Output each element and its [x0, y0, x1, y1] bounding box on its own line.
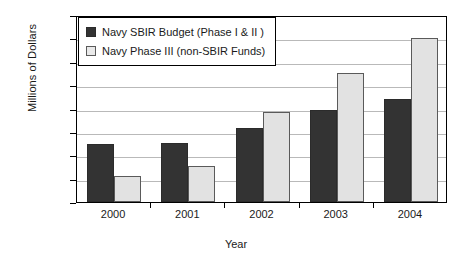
x-tick-mark	[299, 203, 300, 208]
x-tick-label: 2002	[249, 208, 273, 220]
y-tick-mark	[70, 180, 76, 181]
x-tick-label: 2001	[175, 208, 199, 220]
bar-2000-series-0	[87, 144, 114, 202]
bar-2001-series-0	[161, 143, 188, 202]
x-tick-label: 2004	[398, 208, 422, 220]
y-tick-mark	[70, 156, 76, 157]
y-tick-mark	[70, 39, 76, 40]
y-tick-mark	[70, 16, 76, 17]
x-tick-label: 2003	[323, 208, 347, 220]
bar-2002-series-1	[263, 112, 290, 202]
legend-item[interactable]: Navy Phase III (non-SBIR Funds)	[86, 41, 265, 60]
y-axis-title: Millions of Dollars	[26, 0, 38, 148]
legend-swatch-icon	[86, 27, 96, 37]
x-tick-label: 2000	[101, 208, 125, 220]
gridline	[77, 87, 446, 88]
bar-2000-series-1	[114, 176, 141, 202]
bar-chart: Millions of Dollars 05010015020025030035…	[0, 0, 472, 271]
bar-2001-series-1	[188, 166, 215, 202]
bar-2004-series-0	[384, 99, 411, 202]
bar-2002-series-0	[236, 128, 263, 202]
bar-2003-series-1	[337, 73, 364, 202]
x-tick-mark	[373, 203, 374, 208]
bar-2004-series-1	[411, 38, 438, 202]
legend-item[interactable]: Navy SBIR Budget (Phase I & II )	[86, 22, 265, 41]
legend: Navy SBIR Budget (Phase I & II ) Navy Ph…	[78, 17, 276, 66]
y-tick-mark	[70, 86, 76, 87]
x-tick-mark	[150, 203, 151, 208]
legend-item-label: Navy Phase III (non-SBIR Funds)	[102, 45, 265, 57]
x-axis-title: Year	[0, 238, 472, 250]
legend-swatch-icon	[86, 46, 96, 56]
bar-2003-series-0	[310, 110, 337, 202]
y-tick-mark	[70, 63, 76, 64]
y-tick-mark	[70, 110, 76, 111]
y-tick-mark	[70, 133, 76, 134]
y-tick-mark	[70, 203, 76, 204]
legend-item-label: Navy SBIR Budget (Phase I & II )	[102, 26, 264, 38]
x-tick-mark	[224, 203, 225, 208]
